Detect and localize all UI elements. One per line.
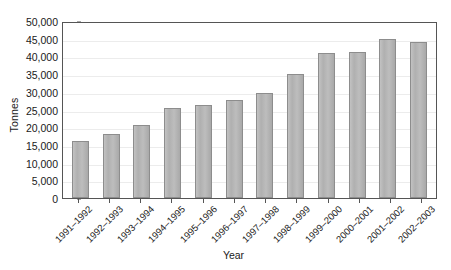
y-axis-tick-label: 10,000 [18, 158, 58, 169]
x-axis-tick-labels: 1991–19921992–19931993–19941994–19951995… [62, 204, 437, 249]
bar [318, 53, 335, 198]
y-axis-tick-label: 5,000 [18, 176, 58, 187]
bar-series [63, 23, 436, 198]
x-axis-tick-mark [140, 199, 141, 203]
y-axis-tick-label: 15,000 [18, 141, 58, 152]
bar [256, 93, 273, 198]
x-axis-tick-mark [265, 199, 266, 203]
bar [349, 52, 366, 198]
x-axis-title: Year [0, 249, 451, 261]
y-axis-tick-label: 40,000 [18, 52, 58, 63]
y-axis-tick-label: 50,000 [18, 17, 58, 28]
bar [379, 39, 396, 198]
x-axis-tick-mark [328, 199, 329, 203]
bar [287, 74, 304, 198]
bar [103, 134, 120, 198]
plot-area [62, 22, 437, 199]
x-axis-tick-mark [171, 199, 172, 203]
bar [195, 105, 212, 198]
y-axis-tick-label: 45,000 [18, 34, 58, 45]
bar [164, 108, 181, 198]
y-axis-tick-label: 20,000 [18, 123, 58, 134]
bar [226, 100, 243, 198]
y-axis-tick-labels: 05,00010,00015,00020,00025,00030,00035,0… [18, 22, 58, 199]
x-axis-tick-mark [421, 199, 422, 203]
x-axis-tick-mark [78, 199, 79, 203]
x-axis-tick-mark [109, 199, 110, 203]
y-axis-tick-label: 35,000 [18, 70, 58, 81]
bar [410, 42, 427, 198]
y-axis-tick-label: 30,000 [18, 88, 58, 99]
x-axis-tick-mark [359, 199, 360, 203]
x-axis-tick-mark [390, 199, 391, 203]
bar-chart-figure: Tonnes 05,00010,00015,00020,00025,00030,… [0, 0, 451, 270]
x-axis-tick-mark [296, 199, 297, 203]
y-axis-tick-label: 25,000 [18, 105, 58, 116]
y-axis-tick-label: 0 [18, 194, 58, 205]
bar [133, 125, 150, 198]
x-axis-tick-mark [203, 199, 204, 203]
x-axis-tick-mark [234, 199, 235, 203]
bar [72, 141, 89, 198]
